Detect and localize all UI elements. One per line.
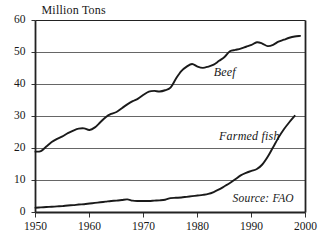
y-axis-tick-label: 10 (2, 173, 26, 185)
x-axis-tick-label: 1960 (70, 220, 110, 232)
source-annotation: Source: FAO (233, 192, 294, 204)
x-axis-tick-label: 2000 (286, 220, 326, 232)
series-lines (36, 36, 301, 208)
x-axis-tick-label: 1950 (16, 220, 56, 232)
y-axis-tick-label: 60 (2, 13, 26, 25)
y-axis-tick-label: 40 (2, 77, 26, 89)
y-axis-tick-label: 20 (2, 141, 26, 153)
line-chart-canvas (0, 0, 327, 244)
y-axis-tick-label: 30 (2, 109, 26, 121)
x-axis-tick-label: 1990 (232, 220, 272, 232)
y-axis-title: Million Tons (42, 3, 106, 18)
y-axis-tick-label: 0 (2, 205, 26, 217)
chart-figure: Million Tons 0102030405060 1950196019701… (0, 0, 327, 244)
x-axis-tick-label: 1980 (178, 220, 218, 232)
series-label-beef: Beef (214, 65, 236, 80)
series-label-farmed-fish: Farmed fish (219, 129, 280, 144)
y-axis-tick-label: 50 (2, 45, 26, 57)
x-axis-tick-label: 1970 (124, 220, 164, 232)
